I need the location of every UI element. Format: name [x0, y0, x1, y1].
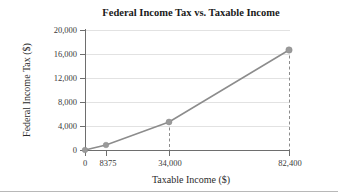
y-axis-title: Federal Income Tax ($)	[21, 43, 33, 137]
chart-figure: Federal Income Tax vs. Taxable Income 20…	[0, 0, 338, 196]
x-axis-title: Taxable Income ($)	[152, 174, 230, 186]
y-tick-label-16000: 16,000	[54, 49, 77, 59]
chart-title: Federal Income Tax vs. Taxable Income	[102, 7, 280, 18]
x-tick-label-0: 0	[83, 158, 87, 168]
x-tick-label-8375: 8375	[100, 158, 117, 168]
data-point-8375	[103, 142, 109, 148]
data-point-0	[82, 147, 88, 153]
y-tick-label-0: 0	[73, 145, 77, 155]
data-point-82400	[286, 47, 292, 53]
data-point-34000	[166, 119, 172, 125]
y-tick-label-4000: 4,000	[58, 121, 77, 131]
x-tick-label-34000: 34,000	[158, 158, 181, 168]
y-tick-label-20000: 20,000	[54, 25, 77, 35]
x-tick-label-82400: 82,400	[278, 158, 301, 168]
y-tick-label-8000: 8,000	[58, 97, 77, 107]
y-tick-label-12000: 12,000	[54, 73, 77, 83]
